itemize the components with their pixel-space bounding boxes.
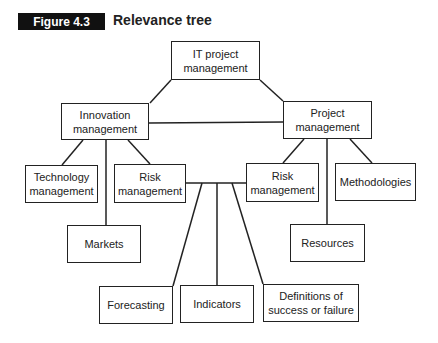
node-definitions-of-success-or-failure: Definitions of success or failure — [263, 284, 359, 322]
node-resources: Resources — [290, 224, 365, 262]
node-project-management: Project management — [283, 101, 372, 139]
node-forecasting: Forecasting — [99, 286, 173, 324]
node-it-project-management: IT project management — [171, 41, 260, 80]
node-innovation-management: Innovation management — [61, 103, 149, 140]
node-risk-management-right: Risk management — [246, 163, 319, 202]
node-technology-management: Technology management — [25, 165, 98, 203]
node-markets: Markets — [67, 225, 141, 263]
node-methodologies: Methodologies — [335, 163, 416, 201]
node-risk-management-left: Risk management — [114, 164, 186, 203]
node-indicators: Indicators — [180, 285, 254, 323]
